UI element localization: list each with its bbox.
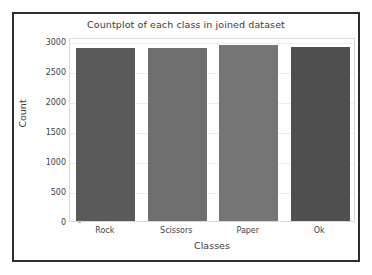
chart-title: Countplot of each class in joined datase… [14, 19, 358, 30]
bar [148, 48, 207, 221]
y-axis-tick-label: 1000 [32, 157, 66, 166]
x-axis-tick-label: Scissors [160, 226, 192, 235]
bar [219, 45, 278, 221]
y-axis-tick-label: 3000 [32, 37, 66, 46]
y-axis-tick-label: 0 [32, 218, 66, 227]
y-axis-tick-label: 2000 [32, 97, 66, 106]
y-axis-tick-label: 500 [32, 187, 66, 196]
bars-layer [70, 39, 354, 221]
figure-card: Countplot of each class in joined datase… [12, 12, 360, 262]
plot-area [69, 38, 355, 222]
bar [76, 48, 135, 221]
x-axis-tick-label: Rock [95, 226, 114, 235]
x-axis-tick-label: Ok [314, 226, 325, 235]
x-axis-tick-label: Paper [236, 226, 259, 235]
y-axis-tick-label: 1500 [32, 127, 66, 136]
y-axis-tick-mark [78, 222, 81, 223]
x-axis-label: Classes [69, 240, 355, 251]
bar [291, 47, 350, 221]
y-axis-tick-label: 2500 [32, 67, 66, 76]
x-axis-tick-labels: RockScissorsPaperOk [69, 226, 355, 240]
y-axis-tick-labels: 050010001500200025003000 [26, 38, 66, 222]
